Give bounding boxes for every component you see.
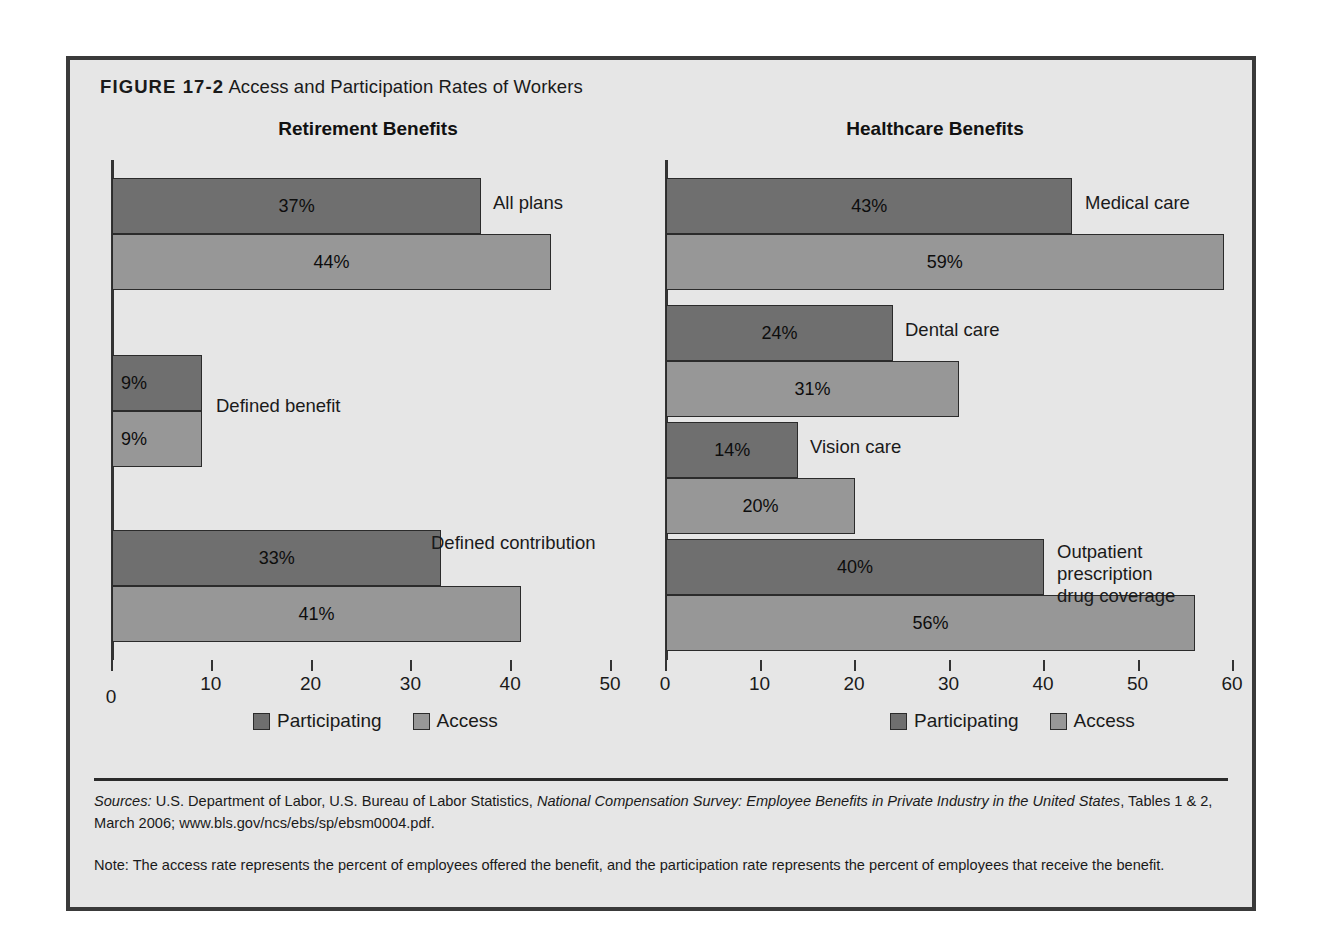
x-axis-tick — [1138, 660, 1140, 671]
chart-title-healthcare: Healthcare Benefits — [610, 118, 1250, 140]
category-label: Vision care — [810, 436, 901, 458]
sources-publication-title: National Compensation Survey: Employee B… — [537, 793, 1120, 809]
legend-healthcare: Participating Access — [890, 710, 1135, 732]
legend-item-participating: Participating — [890, 710, 1019, 732]
x-axis-tick-label: 30 — [938, 673, 959, 695]
bar-access: 31% — [666, 361, 959, 417]
legend-item-participating: Participating — [253, 710, 382, 732]
figure-title-text: Access and Participation Rates of Worker… — [228, 76, 582, 97]
x-axis-tick-label: 40 — [1032, 673, 1053, 695]
legend-swatch-participating-icon — [890, 713, 907, 730]
x-axis-tick — [949, 660, 951, 671]
x-axis-tick-label: 0 — [660, 673, 671, 695]
bar-access: 20% — [666, 478, 855, 534]
figure-container: FIGURE 17-2 Access and Participation Rat… — [66, 56, 1256, 911]
category-label: Medical care — [1085, 192, 1190, 214]
bar-value-label: 9% — [121, 373, 147, 394]
x-axis-tick — [854, 660, 856, 671]
legend-item-access: Access — [1050, 710, 1135, 732]
category-label: Outpatient prescription drug coverage — [1057, 541, 1233, 606]
x-axis-tick — [760, 660, 762, 671]
legend-item-access: Access — [413, 710, 498, 732]
bar-value-label: 14% — [667, 440, 797, 461]
footer-divider — [94, 778, 1228, 781]
x-axis-tick — [410, 660, 412, 671]
figure-footer: Sources: U.S. Department of Labor, U.S. … — [94, 790, 1230, 877]
legend-label-participating: Participating — [277, 710, 382, 732]
legend-swatch-participating-icon — [253, 713, 270, 730]
plot-area-healthcare: 010203040506043%59%Medical care24%31%Den… — [665, 160, 1233, 660]
x-axis-tick — [1232, 660, 1234, 671]
bar-participating: 33% — [112, 530, 441, 586]
bar-value-label: 40% — [667, 557, 1043, 578]
bar-value-label: 37% — [113, 196, 480, 217]
legend-label-participating: Participating — [914, 710, 1019, 732]
chart-panels: Retirement Benefits 0102030405037%44%All… — [70, 118, 1252, 778]
category-label: Defined benefit — [216, 395, 340, 417]
legend-label-access: Access — [437, 710, 498, 732]
x-axis-tick-label: 40 — [500, 673, 521, 695]
bar-participating: 24% — [666, 305, 893, 361]
x-axis-tick — [211, 660, 213, 671]
bar-participating: 43% — [666, 178, 1072, 234]
bar-value-label: 20% — [667, 496, 854, 517]
x-axis-tick-label: 50 — [1127, 673, 1148, 695]
x-axis-tick-label: 30 — [400, 673, 421, 695]
x-axis-tick — [111, 660, 113, 671]
sources-body-1: U.S. Department of Labor, U.S. Bureau of… — [152, 793, 537, 809]
bar-access: 9% — [112, 411, 202, 467]
x-axis-tick — [665, 660, 667, 671]
category-label: Defined contribution — [431, 532, 596, 554]
bar-value-label: 44% — [113, 252, 550, 273]
x-axis-tick-label: 60 — [1221, 673, 1242, 695]
bar-participating: 14% — [666, 422, 798, 478]
category-label: All plans — [493, 192, 563, 214]
chart-panel-retirement: Retirement Benefits 0102030405037%44%All… — [78, 118, 638, 778]
bar-value-label: 41% — [113, 604, 520, 625]
bar-value-label: 59% — [667, 252, 1223, 273]
bar-access: 41% — [112, 586, 521, 642]
legend-label-access: Access — [1074, 710, 1135, 732]
bar-value-label: 31% — [667, 379, 958, 400]
x-axis-tick-label: 10 — [749, 673, 770, 695]
x-axis-tick — [1043, 660, 1045, 671]
bar-value-label: 9% — [121, 429, 147, 450]
note-text: Note: The access rate represents the per… — [94, 854, 1230, 876]
x-axis-tick — [510, 660, 512, 671]
sources-text: Sources: U.S. Department of Labor, U.S. … — [94, 790, 1230, 834]
bar-access: 44% — [112, 234, 551, 290]
legend-swatch-access-icon — [413, 713, 430, 730]
x-axis-tick-label: 20 — [843, 673, 864, 695]
category-label: Dental care — [905, 319, 1000, 341]
bar-participating: 40% — [666, 539, 1044, 595]
chart-title-retirement: Retirement Benefits — [78, 118, 638, 140]
x-axis-tick-label: 20 — [300, 673, 321, 695]
bar-value-label: 56% — [667, 613, 1194, 634]
plot-area-retirement: 0102030405037%44%All plans9%9%Defined be… — [111, 160, 611, 660]
figure-label: FIGURE 17-2 — [100, 76, 224, 97]
bar-value-label: 24% — [667, 323, 892, 344]
bar-value-label: 43% — [667, 196, 1071, 217]
sources-prefix: Sources: — [94, 793, 152, 809]
x-axis-tick-label: 10 — [200, 673, 221, 695]
bar-participating: 37% — [112, 178, 481, 234]
bar-participating: 9% — [112, 355, 202, 411]
legend-swatch-access-icon — [1050, 713, 1067, 730]
bar-value-label: 33% — [113, 548, 440, 569]
bar-access: 59% — [666, 234, 1224, 290]
legend-retirement: Participating Access — [253, 710, 498, 732]
chart-panel-healthcare: Healthcare Benefits 010203040506043%59%M… — [610, 118, 1250, 778]
figure-title: FIGURE 17-2 Access and Participation Rat… — [100, 76, 583, 98]
x-axis-tick-label: 0 — [106, 686, 117, 708]
x-axis-tick — [311, 660, 313, 671]
